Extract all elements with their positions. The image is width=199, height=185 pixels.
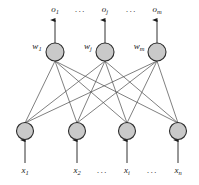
output-arrows	[55, 20, 157, 43]
weight-label-w1-sub: 1	[38, 45, 41, 52]
input-label-xn: xn	[174, 166, 181, 176]
connection-edges	[25, 61, 178, 123]
edge-top2-bottom1	[25, 61, 105, 123]
bottom-node-1[interactable]	[17, 123, 34, 140]
weight-label-wm-sub: m	[140, 45, 145, 52]
input-ellipsis-1: ···	[97, 168, 108, 177]
weight-label-w1: w1	[32, 42, 41, 52]
input-label-xn-sub: n	[178, 169, 181, 176]
input-label-x1: x1	[21, 166, 28, 176]
output-ellipsis-2: ···	[126, 7, 137, 16]
input-label-x2: x2	[73, 166, 80, 176]
input-label-x2-sub: 2	[77, 169, 80, 176]
edge-top1-bottom1	[25, 61, 55, 123]
output-label-o1-sub: 1	[56, 8, 59, 15]
input-label-x1-sub: 1	[25, 169, 28, 176]
output-label-om: om	[152, 5, 161, 15]
input-label-xi-sub: i	[128, 169, 130, 176]
top-node-1[interactable]	[46, 43, 64, 61]
output-label-o1: o1	[51, 5, 59, 15]
edge-top3-bottom3	[127, 61, 157, 123]
output-label-oj: oj	[102, 5, 108, 15]
bottom-node-3[interactable]	[119, 123, 136, 140]
input-ellipsis-2: ···	[147, 168, 158, 177]
output-ellipsis-1: ···	[75, 7, 86, 16]
bottom-node-4[interactable]	[170, 123, 187, 140]
input-label-xi: xi	[124, 166, 130, 176]
weight-label-wm: wm	[134, 42, 145, 52]
weight-label-wj: wj	[84, 42, 92, 52]
bottom-node-2[interactable]	[69, 123, 86, 140]
output-label-oj-sub: j	[106, 8, 108, 15]
edge-top3-bottom2	[77, 61, 157, 123]
edge-top3-bottom1	[25, 61, 157, 123]
top-node-3[interactable]	[148, 43, 166, 61]
output-label-om-sub: m	[157, 8, 162, 15]
network-graphic	[0, 0, 199, 185]
input-arrows	[25, 140, 178, 163]
neural-network-figure: o1 ··· oj ··· om w1 wj wm x1 x2 ··· xi ·…	[0, 0, 199, 185]
top-layer-nodes	[46, 43, 166, 61]
bottom-layer-nodes	[17, 123, 187, 140]
top-node-2[interactable]	[96, 43, 114, 61]
weight-label-wj-sub: j	[90, 45, 92, 52]
